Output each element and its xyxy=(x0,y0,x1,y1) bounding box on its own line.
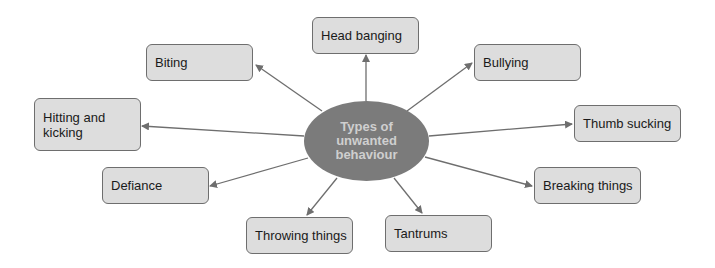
mind-map: Types of unwanted behaviour Head banging… xyxy=(0,0,715,268)
arrow-biting xyxy=(256,65,322,111)
arrow-defiance xyxy=(210,158,308,186)
arrow-throwing-things xyxy=(307,178,337,215)
arrow-tantrums xyxy=(394,178,422,213)
node-label: Head banging xyxy=(321,28,402,43)
node-label: Bullying xyxy=(483,55,529,70)
node-label: Tantrums xyxy=(394,226,447,241)
arrow-breaking-things xyxy=(425,157,532,186)
node-label: Defiance xyxy=(111,178,162,193)
node-breaking-things: Breaking things xyxy=(534,167,641,204)
node-label: Throwing things xyxy=(255,228,347,243)
arrow-bullying xyxy=(407,63,472,111)
node-hitting-and-kicking: Hitting and kicking xyxy=(34,98,141,151)
node-label: Breaking things xyxy=(543,178,633,193)
node-label: Thumb sucking xyxy=(583,116,671,131)
node-biting: Biting xyxy=(146,44,253,81)
node-label: Biting xyxy=(155,55,188,70)
node-label: Hitting and kicking xyxy=(43,110,123,140)
node-head-banging: Head banging xyxy=(312,17,419,54)
node-bullying: Bullying xyxy=(474,44,581,81)
central-topic: Types of unwanted behaviour xyxy=(304,101,429,181)
arrow-thumb-sucking xyxy=(429,124,572,136)
node-tantrums: Tantrums xyxy=(385,215,492,252)
node-throwing-things: Throwing things xyxy=(246,217,353,254)
node-thumb-sucking: Thumb sucking xyxy=(574,105,681,142)
node-defiance: Defiance xyxy=(102,167,209,204)
central-topic-label: Types of unwanted behaviour xyxy=(327,120,407,162)
arrow-hitting xyxy=(142,126,304,136)
